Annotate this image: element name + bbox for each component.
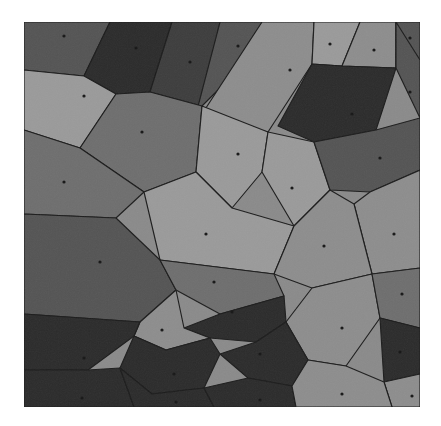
voronoi-figure-frame [24,22,420,407]
figure-page [0,0,441,426]
film-grain-overlay [24,22,420,407]
voronoi-canvas [24,22,420,407]
